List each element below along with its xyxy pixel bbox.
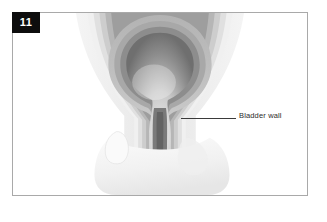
figure-container: Bladder wall 11 bbox=[0, 0, 327, 222]
leader-line-bladder-wall bbox=[181, 118, 236, 119]
lumen-highlight bbox=[132, 64, 176, 100]
bladder-cross-section-illustration bbox=[13, 13, 307, 195]
figure-number-badge: 11 bbox=[12, 12, 40, 33]
callout-label-bladder-wall: Bladder wall bbox=[239, 112, 282, 120]
figure-frame: Bladder wall bbox=[12, 12, 308, 196]
